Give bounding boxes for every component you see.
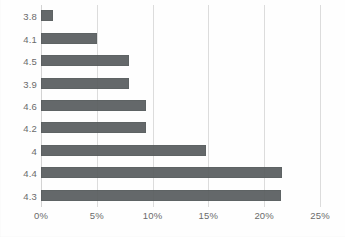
x-axis-tick-label: 0% bbox=[34, 210, 48, 221]
bar bbox=[41, 55, 129, 66]
bar-row bbox=[41, 145, 320, 156]
y-axis-tick-label: 4.1 bbox=[0, 33, 37, 44]
bar bbox=[41, 100, 146, 111]
x-axis-tick-label: 20% bbox=[254, 210, 274, 221]
plot-area bbox=[41, 5, 320, 207]
y-axis-tick-label: 4.2 bbox=[0, 123, 37, 134]
y-axis-tick-label: 4.3 bbox=[0, 190, 37, 201]
bar-row bbox=[41, 122, 320, 133]
bar bbox=[41, 10, 53, 21]
bar bbox=[41, 78, 129, 89]
x-axis-tick-label: 10% bbox=[143, 210, 163, 221]
bar-row bbox=[41, 10, 320, 21]
x-axis-tick-label: 25% bbox=[310, 210, 330, 221]
bar-row bbox=[41, 190, 320, 201]
bar bbox=[41, 167, 282, 178]
y-axis-tick-label: 4.5 bbox=[0, 56, 37, 67]
y-axis-tick-label: 3.8 bbox=[0, 11, 37, 22]
bar-row bbox=[41, 167, 320, 178]
y-axis-tick-label: 4 bbox=[0, 145, 37, 156]
bar-row bbox=[41, 55, 320, 66]
bar bbox=[41, 145, 206, 156]
gridline-25% bbox=[320, 5, 321, 207]
y-axis-tick-label: 3.9 bbox=[0, 78, 37, 89]
y-axis: 3.84.14.53.94.64.244.44.3 bbox=[0, 5, 37, 207]
bar bbox=[41, 122, 146, 133]
x-axis-tick-label: 15% bbox=[199, 210, 219, 221]
y-axis-tick-label: 4.4 bbox=[0, 168, 37, 179]
bar bbox=[41, 190, 281, 201]
bar-row bbox=[41, 78, 320, 89]
x-axis-tick-label: 5% bbox=[90, 210, 104, 221]
bar-row bbox=[41, 33, 320, 44]
x-axis: 0%5%10%15%20%25% bbox=[41, 210, 320, 230]
bar-chart: 3.84.14.53.94.64.244.44.3 0%5%10%15%20%2… bbox=[0, 0, 345, 237]
bar-row bbox=[41, 100, 320, 111]
y-axis-tick-label: 4.6 bbox=[0, 101, 37, 112]
bar bbox=[41, 33, 97, 44]
